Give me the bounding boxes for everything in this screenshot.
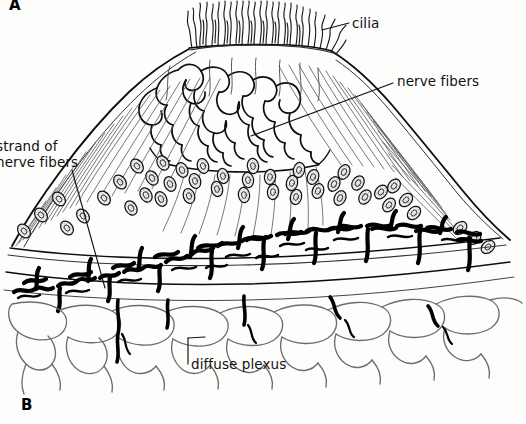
leader-nerve-fibers — [251, 83, 393, 136]
basal-cell-mesh — [9, 296, 522, 394]
diffuse-plexus-band — [14, 211, 481, 311]
figure-container: cilia nerve fibers strand of nerve fiber… — [0, 0, 526, 424]
panel-letter-b: B — [21, 396, 32, 414]
label-strand-line2: nerve fibers — [0, 155, 78, 171]
nerve-fiber-network — [139, 64, 319, 166]
label-diffuse-plexus: diffuse plexus — [191, 357, 286, 373]
leader-diffuse-plexus-hook — [188, 337, 205, 338]
label-strand-line1: strand of — [0, 139, 78, 155]
panel-letter-a: A — [9, 0, 21, 14]
label-nerve-fibers: nerve fibers — [397, 74, 479, 90]
label-strand-of-nerve-fibers: strand of nerve fibers — [0, 139, 78, 170]
label-cilia: cilia — [352, 16, 379, 32]
